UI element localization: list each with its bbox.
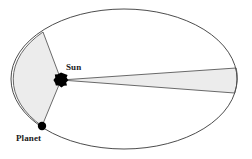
sun-label: Sun <box>66 62 81 72</box>
planet-label: Planet <box>16 133 41 143</box>
perihelion-sector-shape <box>13 32 61 126</box>
planet-body-icon <box>38 122 46 130</box>
kepler-orbit-diagram: Sun Planet <box>0 0 252 159</box>
aphelion-sector-shape <box>61 68 237 93</box>
